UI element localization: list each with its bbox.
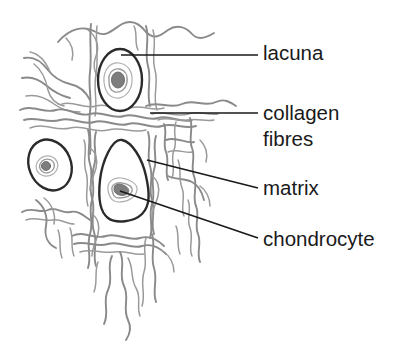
collagen-fibre [58, 230, 62, 258]
collagen-fibre [58, 22, 146, 42]
collagen-fibre [134, 26, 138, 50]
diagram-canvas: lacuna collagen fibres matrix chondrocyt… [0, 0, 394, 342]
collagen-fibre [164, 252, 174, 272]
collagen-fibre [158, 119, 214, 121]
collagen-fibre [168, 176, 204, 200]
collagen-fibre [36, 200, 56, 248]
label-chondrocyte: chondrocyte [263, 227, 375, 250]
cartilage-diagram: lacuna collagen fibres matrix chondrocyt… [0, 0, 394, 342]
collagen-fibre [66, 38, 73, 60]
top-lacuna [98, 49, 142, 111]
collagen-fibre [142, 238, 146, 306]
collagen-fibre [188, 200, 192, 256]
collagen-fibre [153, 30, 157, 110]
collagen-fibre [152, 234, 156, 302]
left-chondrocyte-nucleus [41, 162, 50, 171]
collagen-fibre [146, 27, 214, 38]
collagen-fibre [176, 226, 180, 254]
collagen-fibre [120, 252, 130, 340]
label-fibres: fibres [263, 127, 313, 150]
collagen-fibre [190, 118, 196, 206]
collagen-fibre [146, 100, 236, 106]
labels: lacuna collagen fibres matrix chondrocyt… [263, 41, 375, 250]
collagen-fibre [196, 206, 200, 262]
collagen-fibre [200, 186, 210, 206]
leader-line-matrix [147, 160, 258, 188]
collagen-fibre [168, 151, 192, 153]
top-chondrocyte-nucleus [112, 72, 125, 88]
collagen-fibre [84, 140, 88, 206]
collagen-fibre [26, 219, 74, 224]
collagen-fibre [128, 258, 140, 316]
label-collagen: collagen [263, 101, 339, 124]
collagen-fibre [200, 140, 207, 162]
left-lacuna [21, 133, 79, 197]
collagen-fibre [104, 256, 112, 324]
collagen-fibre [24, 119, 196, 127]
collagen-fibre [146, 26, 150, 106]
bottom-lacuna [99, 140, 148, 222]
label-lacuna: lacuna [263, 41, 324, 64]
label-matrix: matrix [263, 176, 320, 199]
bottom-lacuna-outline [99, 140, 148, 222]
collagen-fibre [70, 228, 74, 256]
